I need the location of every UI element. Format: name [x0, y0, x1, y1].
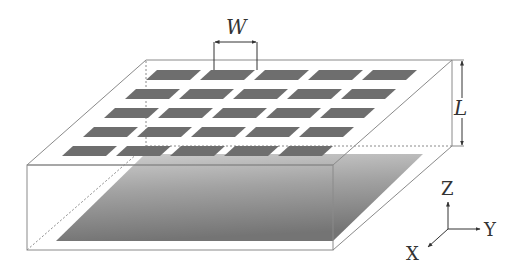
patch	[266, 108, 321, 118]
width-dimension	[214, 42, 257, 70]
patch	[137, 127, 192, 137]
x-axis-label: X	[406, 245, 419, 263]
x-axis-arrow	[428, 229, 448, 247]
patch	[62, 146, 117, 156]
slab-diagram	[0, 0, 523, 275]
patch	[125, 89, 180, 99]
length-label: L	[454, 98, 467, 118]
patch	[341, 89, 396, 99]
patch-array	[62, 70, 417, 156]
patch	[320, 108, 375, 118]
patch	[104, 108, 159, 118]
patch	[287, 89, 342, 99]
patch	[254, 70, 309, 80]
y-axis-label: Y	[484, 221, 496, 239]
patch	[212, 108, 267, 118]
axis-triad	[428, 202, 480, 247]
z-axis-label: Z	[441, 180, 454, 198]
patch	[191, 127, 246, 137]
patch	[245, 127, 300, 137]
patch	[362, 70, 417, 80]
patch	[146, 70, 201, 80]
patch	[179, 89, 234, 99]
patch	[308, 70, 363, 80]
patch	[83, 127, 138, 137]
patch	[299, 127, 354, 137]
patch	[158, 108, 213, 118]
ground-plane	[56, 154, 423, 241]
width-label: W	[226, 17, 247, 37]
patch	[200, 70, 255, 80]
patch	[233, 89, 288, 99]
